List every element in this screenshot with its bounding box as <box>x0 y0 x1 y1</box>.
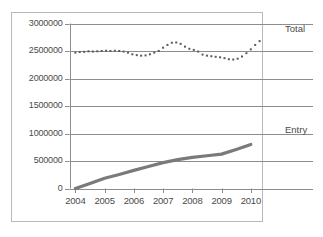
total-marker <box>206 55 208 57</box>
series-total-markers <box>74 40 260 60</box>
total-marker <box>109 50 111 52</box>
y-tick-label-0: 0 <box>3 184 63 193</box>
total-marker <box>245 52 247 54</box>
total-marker <box>219 56 221 58</box>
total-marker <box>92 51 94 53</box>
total-marker <box>149 53 151 55</box>
total-marker <box>215 56 217 58</box>
total-marker <box>74 52 76 54</box>
series-entry-line <box>75 145 250 189</box>
entry-line-path <box>75 145 250 189</box>
total-marker <box>188 48 190 50</box>
total-marker <box>228 58 230 60</box>
total-marker <box>101 50 103 52</box>
total-marker <box>237 58 239 60</box>
total-marker <box>259 40 261 42</box>
y-tick-label-2500000: 2500000 <box>3 46 63 55</box>
total-marker <box>140 55 142 57</box>
total-marker <box>158 50 160 52</box>
total-marker <box>210 55 212 57</box>
y-tick-label-500000: 500000 <box>3 156 63 165</box>
total-marker <box>197 51 199 53</box>
y-tick-label-3000000: 3000000 <box>3 19 63 28</box>
chart-figure: 0500000100000015000002000000250000030000… <box>0 0 323 237</box>
total-marker <box>184 46 186 48</box>
total-marker <box>250 48 252 50</box>
total-marker <box>153 52 155 54</box>
total-marker <box>83 51 85 53</box>
y-tick-label-2000000: 2000000 <box>3 74 63 83</box>
y-tick-label-1000000: 1000000 <box>3 129 63 138</box>
total-marker <box>88 50 90 52</box>
total-marker <box>223 57 225 59</box>
series-label-total: Total <box>285 24 305 34</box>
total-marker <box>175 41 177 43</box>
total-marker <box>136 54 138 56</box>
total-marker <box>180 43 182 45</box>
total-marker <box>254 44 256 46</box>
y-tick-label-1500000: 1500000 <box>3 101 63 110</box>
total-marker <box>123 51 125 53</box>
total-marker <box>79 51 81 53</box>
total-marker <box>114 50 116 52</box>
total-marker <box>202 54 204 56</box>
total-marker <box>193 49 195 51</box>
total-marker <box>131 53 133 55</box>
total-marker <box>162 47 164 49</box>
total-marker <box>105 50 107 52</box>
gridlines-group <box>70 25 314 190</box>
total-marker <box>166 44 168 46</box>
y-axis-ticks-group <box>65 25 70 190</box>
total-marker <box>241 56 243 58</box>
total-marker <box>96 50 98 52</box>
total-marker <box>171 42 173 44</box>
x-tick-label-2010: 2010 <box>234 196 268 206</box>
series-label-entry: Entry <box>285 125 307 135</box>
total-marker <box>145 54 147 56</box>
total-marker <box>232 59 234 61</box>
total-marker <box>118 50 120 52</box>
total-marker <box>127 52 129 54</box>
